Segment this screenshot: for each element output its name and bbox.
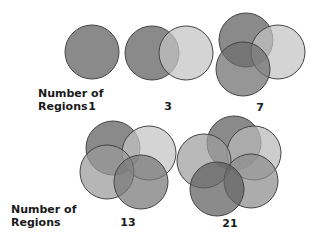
count-1: 1 [88, 100, 96, 113]
venn-diagrams [0, 0, 321, 236]
venn-group-1 [65, 25, 119, 79]
venn-circle [159, 26, 213, 80]
venn-group-7 [216, 13, 305, 96]
venn-circle [216, 42, 270, 96]
row1-label-line1: Number of [38, 87, 103, 100]
venn-circle [190, 162, 244, 216]
row2-label: Number of Regions [11, 203, 76, 229]
venn-circle [65, 25, 119, 79]
venn-circle [114, 155, 168, 209]
venn-group-21 [177, 116, 281, 216]
row2-label-line1: Number of [11, 203, 76, 216]
count-7: 7 [256, 101, 264, 114]
count-3: 3 [164, 100, 172, 113]
venn-group-3 [125, 26, 213, 80]
venn-group-13 [80, 121, 176, 209]
count-21: 21 [222, 217, 237, 230]
row2-label-line2: Regions [11, 216, 76, 229]
count-13: 13 [120, 216, 135, 229]
